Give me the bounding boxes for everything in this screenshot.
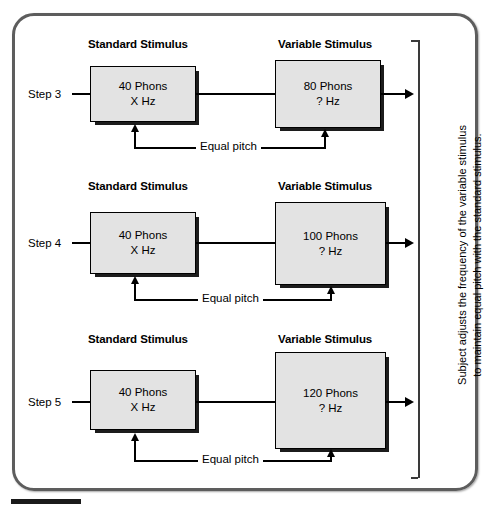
bottom-rule [11, 499, 81, 504]
standard-level-3: 40 Phons [119, 79, 168, 94]
equal-pitch-right-arrow-4 [327, 286, 335, 294]
exit-arrowhead-4 [405, 238, 414, 248]
equal-pitch-right-stem-4 [330, 293, 332, 301]
equal-pitch-right-arrow-3 [321, 129, 329, 137]
equal-pitch-label-3: Equal pitch [196, 140, 261, 152]
variable-level-4: 100 Phons [303, 229, 358, 244]
standard-frequency-4: X Hz [131, 243, 156, 258]
heading-standard-stimulus-3: Standard Stimulus [88, 38, 188, 50]
side-caption: Subject adjusts the frequency of the var… [455, 40, 484, 470]
equal-pitch-label-5: Equal pitch [198, 453, 263, 465]
variable-frequency-3: ? Hz [316, 94, 340, 109]
side-bracket-top-hook [411, 40, 418, 42]
equal-pitch-right-arrow-5 [327, 449, 335, 457]
link-line-3 [196, 93, 276, 95]
variable-level-5: 120 Phons [303, 386, 358, 401]
step-label-4: Step 4 [28, 237, 61, 249]
equal-pitch-label-4: Equal pitch [198, 292, 263, 304]
heading-variable-stimulus-5: Variable Stimulus [278, 333, 372, 345]
standard-stimulus-box-4: 40 Phons X Hz [90, 212, 196, 274]
step-label-3: Step 3 [28, 88, 61, 100]
standard-level-5: 40 Phons [119, 385, 168, 400]
standard-frequency-5: X Hz [131, 400, 156, 415]
side-caption-line-2: to maintain equal pitch with the standar… [470, 40, 485, 470]
outer-frame [12, 13, 478, 491]
step-label-5: Step 5 [28, 396, 61, 408]
equal-pitch-left-arrow-3 [131, 124, 139, 132]
variable-frequency-4: ? Hz [319, 244, 343, 259]
variable-stimulus-box-5: 120 Phons ? Hz [275, 352, 386, 449]
equal-pitch-right-stem-3 [324, 136, 326, 149]
side-bracket-bottom-hook [411, 477, 418, 479]
link-line-5 [196, 401, 276, 403]
exit-line-3 [381, 93, 407, 95]
side-bracket [418, 40, 420, 478]
variable-stimulus-box-3: 80 Phons ? Hz [275, 60, 381, 128]
variable-stimulus-box-4: 100 Phons ? Hz [275, 202, 386, 285]
link-line-4 [196, 242, 276, 244]
side-caption-line-1: Subject adjusts the frequency of the var… [455, 40, 470, 470]
equal-pitch-left-arrow-5 [131, 433, 139, 441]
heading-variable-stimulus-3: Variable Stimulus [278, 38, 372, 50]
heading-variable-stimulus-4: Variable Stimulus [278, 180, 372, 192]
standard-stimulus-box-3: 40 Phons X Hz [90, 66, 196, 122]
variable-frequency-5: ? Hz [319, 401, 343, 416]
equal-pitch-left-stem-5 [134, 440, 136, 462]
exit-arrowhead-5 [405, 397, 414, 407]
heading-standard-stimulus-5: Standard Stimulus [88, 333, 188, 345]
variable-level-3: 80 Phons [304, 79, 353, 94]
standard-level-4: 40 Phons [119, 228, 168, 243]
entry-line-5 [72, 401, 92, 403]
equal-pitch-left-arrow-4 [131, 276, 139, 284]
heading-standard-stimulus-4: Standard Stimulus [88, 180, 188, 192]
exit-arrowhead-3 [405, 89, 414, 99]
entry-line-4 [72, 242, 92, 244]
standard-stimulus-box-5: 40 Phons X Hz [90, 370, 196, 430]
figure-root: Standard Stimulus Variable Stimulus Step… [0, 0, 490, 511]
entry-line-3 [72, 93, 92, 95]
standard-frequency-3: X Hz [131, 94, 156, 109]
